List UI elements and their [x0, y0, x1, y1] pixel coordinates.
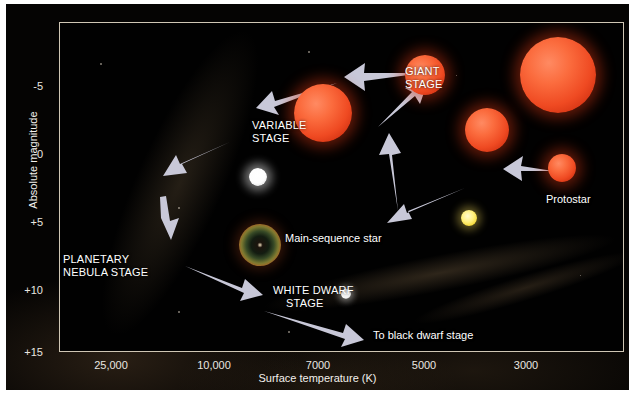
background-speck — [178, 207, 180, 209]
hot-white-star[interactable] — [249, 168, 267, 186]
label-planetary-nebula-stage: PLANETARY NEBULA STAGE — [63, 253, 148, 278]
protostar-star[interactable] — [548, 154, 576, 182]
arrow-protostar-to-main-sequence — [387, 188, 465, 223]
red-giant-medium-star[interactable] — [465, 108, 509, 152]
giant-stage-star[interactable] — [520, 37, 596, 113]
figure-canvas: -5 0 +5 +10 +15 Absolute magnitude 25,00… — [6, 4, 629, 390]
arrow-white-star-to-planetary-nebula — [160, 196, 179, 240]
label-white-dwarf-stage: WHITE DWARF STAGE — [273, 284, 354, 309]
label-giant-stage: GIANT STAGE — [405, 65, 442, 90]
x-tick-label-7000: 7000 — [306, 360, 330, 371]
x-tick-label-5000: 5000 — [412, 360, 436, 371]
arrow-variable-to-white-star — [163, 142, 230, 176]
milky-way-band-left — [59, 22, 412, 352]
arrow-dust-to-protostar — [503, 156, 553, 181]
x-tick-label-3000: 3000 — [514, 360, 538, 371]
y-axis-title: Absolute magnitude — [27, 85, 39, 235]
label-protostar: Protostar — [546, 193, 591, 206]
background-speck — [288, 331, 290, 333]
y-tick-label-plus15: +15 — [24, 347, 43, 358]
label-variable-stage: VARIABLE STAGE — [252, 119, 307, 144]
background-speck — [100, 63, 102, 65]
x-tick-label-25000: 25,000 — [94, 360, 128, 371]
label-to-black-dwarf-stage: To black dwarf stage — [373, 329, 473, 342]
plot-area: GIANT STAGE VARIABLE STAGE PLANETARY NEB… — [59, 22, 624, 352]
planetary-nebula-ring[interactable] — [239, 224, 281, 266]
arrow-planetary-nebula-to-white-dwarf — [185, 266, 263, 301]
x-tick-label-10000: 10,000 — [197, 360, 231, 371]
hr-diagram-figure: -5 0 +5 +10 +15 Absolute magnitude 25,00… — [0, 0, 635, 401]
background-speck — [456, 75, 457, 76]
background-speck — [308, 51, 310, 53]
arrow-main-sequence-to-giant — [379, 133, 401, 211]
x-axis-title: Surface temperature (K) — [6, 372, 629, 384]
background-speck — [178, 311, 180, 313]
background-speck — [580, 275, 581, 276]
arrow-white-dwarf-to-black-dwarf — [264, 311, 364, 347]
y-tick-label-plus10: +10 — [24, 285, 43, 296]
main-sequence-star-dot[interactable] — [461, 210, 477, 226]
label-main-sequence-star: Main-sequence star — [285, 232, 382, 245]
